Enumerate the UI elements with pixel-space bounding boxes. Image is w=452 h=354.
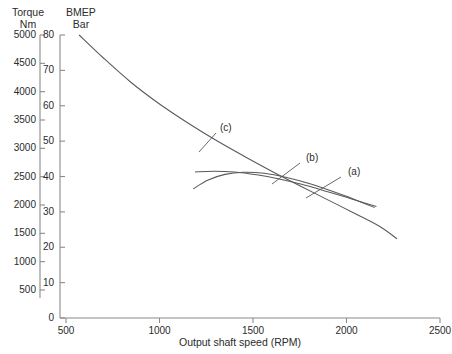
- torque-tick-label: 3000: [2, 143, 36, 153]
- curve-label-c: (c): [220, 123, 232, 133]
- engine-performance-chart: Torque Nm BMEP Bar 500100015002000250030…: [0, 0, 452, 354]
- curve-label-a: (a): [348, 167, 360, 177]
- bmep-tick-label: 50: [34, 136, 54, 146]
- bmep-tick-label: 0: [34, 313, 54, 323]
- axis-lines: [40, 35, 440, 318]
- curve-label-b: (b): [306, 153, 318, 163]
- x-tick-label: 500: [46, 326, 86, 336]
- x-tick-label: 1500: [233, 326, 273, 336]
- bmep-tick-label: 30: [34, 207, 54, 217]
- data-curves: [79, 35, 397, 239]
- bmep-tick-label: 60: [34, 101, 54, 111]
- torque-tick-label: 4500: [2, 58, 36, 68]
- x-tick-label: 1000: [140, 326, 180, 336]
- bmep-tick-label: 10: [34, 278, 54, 288]
- torque-tick-label: 4000: [2, 87, 36, 97]
- plot-area: [0, 0, 452, 354]
- torque-tick-label: 1000: [2, 257, 36, 267]
- x-tick-label: 2500: [420, 326, 452, 336]
- torque-tick-label: 2500: [2, 172, 36, 182]
- torque-tick-label: 1500: [2, 228, 36, 238]
- bmep-tick-label: 40: [34, 172, 54, 182]
- bmep-tick-label: 80: [34, 30, 54, 40]
- torque-tick-label: 2000: [2, 200, 36, 210]
- bmep-tick-label: 70: [34, 65, 54, 75]
- bmep-tick-label: 20: [34, 242, 54, 252]
- x-axis-title: Output shaft speed (RPM): [120, 336, 360, 348]
- torque-tick-label: 3500: [2, 115, 36, 125]
- torque-tick-label: 500: [2, 285, 36, 295]
- curve-c: [79, 35, 397, 239]
- x-tick-label: 2000: [327, 326, 367, 336]
- torque-tick-label: 5000: [2, 30, 36, 40]
- tick-marks: [40, 35, 440, 323]
